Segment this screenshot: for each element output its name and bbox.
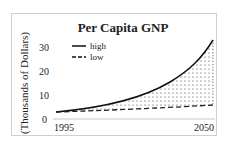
chart: Per Capita GNP (Thousands of Dollars) 0 … bbox=[0, 0, 231, 145]
legend-high-label: high bbox=[90, 41, 107, 51]
y-tick-0: 0 bbox=[42, 114, 47, 125]
x-tick-2050: 2050 bbox=[194, 122, 214, 133]
y-tick-10: 10 bbox=[39, 90, 49, 101]
y-tick-30: 30 bbox=[39, 42, 49, 53]
chart-title: Per Capita GNP bbox=[78, 20, 169, 35]
y-tick-20: 20 bbox=[39, 66, 49, 77]
fill-between bbox=[56, 40, 213, 112]
y-axis-label: (Thousands of Dollars) bbox=[18, 32, 31, 134]
x-tick-1995: 1995 bbox=[54, 122, 74, 133]
legend-low-label: low bbox=[90, 52, 104, 62]
